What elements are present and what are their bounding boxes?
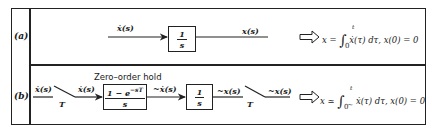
eq-integrand: ẋ(τ) dτ, — [356, 96, 388, 106]
input-signal-label-b: ẋ(s) — [35, 84, 52, 94]
output-signal-label-b: ~x(s) — [268, 86, 292, 96]
zoh-exponent: −sT — [130, 86, 143, 93]
zoh-title: Zero–order hold — [94, 72, 162, 82]
zoh-numerator-text: 1 − e — [107, 88, 130, 98]
integral-lower: 0 — [345, 42, 349, 50]
integrator-block-b: 1 s — [186, 84, 213, 110]
zoh-denominator: s — [123, 99, 128, 109]
zero-order-hold-block: 1 − e−sT s — [103, 84, 147, 110]
eq-initial-condition: x(0) = 0 — [390, 96, 425, 106]
eq-initial-condition: x(0) = 0 — [384, 35, 419, 45]
block-numerator: 1 — [195, 87, 205, 98]
approx-tilde: ~ — [347, 101, 353, 109]
eq-integrand: ẋ(τ) dτ, — [349, 35, 381, 45]
zoh-numerator: 1 − e−sT — [105, 85, 145, 99]
input-signal-label-a: ẋ(s) — [117, 23, 134, 33]
eq-lhs: x ≃ — [320, 96, 335, 106]
signal-wires — [0, 0, 432, 131]
block-numerator: 1 — [177, 29, 187, 40]
sampled-signal-label: ẋ(s) — [78, 84, 95, 94]
integrator-block-a: 1 s — [168, 26, 196, 52]
block-denominator: s — [180, 40, 185, 50]
result-equation-a: x = ∫ t 0 ẋ(τ) dτ, x(0) = 0 — [322, 30, 419, 46]
zoh-output-label: ~ẋ(s) — [153, 84, 177, 94]
sampler2-period-label: T — [247, 99, 253, 109]
eq-lhs: x = — [322, 35, 337, 45]
sampler-switch-icon-2 — [245, 86, 265, 97]
implies-arrow-icon-a — [300, 31, 319, 43]
output-signal-label-a: x(s) — [242, 26, 259, 36]
sampler1-period-label: T — [59, 99, 65, 109]
row-label-a: (a) — [14, 31, 28, 41]
sampler-switch-icon-1 — [54, 86, 75, 97]
integral-upper: t — [352, 23, 354, 30]
result-equation-b: x ≃ ∫ t 0 ~ ẋ(τ) dτ, x(0) = 0 — [320, 91, 425, 107]
integral-upper: t — [350, 84, 352, 91]
block-denominator: s — [197, 98, 202, 108]
integrator-output-label: ~x(s) — [217, 86, 241, 96]
implies-arrow-icon-b — [300, 91, 319, 103]
row-label-b: (b) — [14, 91, 29, 101]
